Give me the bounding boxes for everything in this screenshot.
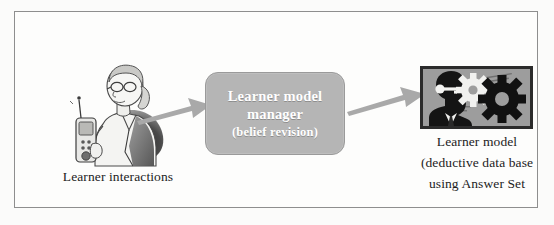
learner-model-caption: Learner model (deductive data base using… [391,131,554,194]
learner-model-manager-box[interactable]: Learner model manager (belief revision) [205,72,345,155]
head-silhouette-with-gears-icon [420,66,533,129]
figure-root: Learner interactions Learner model manag… [0,0,554,225]
learner-interactions-caption: Learner interactions [33,168,203,185]
learner-model-caption-line-3: using Answer Set [391,173,554,194]
arrow-manager-to-model-icon [345,84,427,120]
manager-title-line-1: Learner model [228,87,323,105]
manager-title-line-2: manager [247,105,303,123]
manager-subtitle-belief-revision: (belief revision) [232,123,318,141]
arrow-learner-to-manager-icon [135,94,213,130]
figure-border-frame: Learner interactions Learner model manag… [14,11,538,208]
learner-model-caption-line-2: (deductive data base [391,152,554,173]
learner-model-caption-line-1: Learner model [391,131,554,152]
